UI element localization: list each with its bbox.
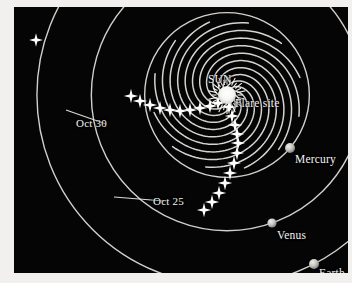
diagram-canvas: SUN Flare site Mercury Venus Earth Oct 3… [14, 7, 348, 273]
heliosphere-svg [14, 7, 348, 273]
figure-root: SUN Flare site Mercury Venus Earth Oct 3… [0, 0, 352, 283]
background-star [29, 33, 43, 47]
